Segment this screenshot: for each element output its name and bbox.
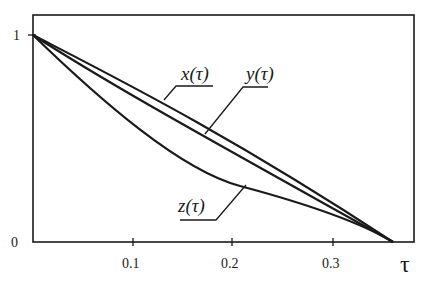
label-x-tau: x(τ) [180,63,209,85]
y-tick-label-0: 0 [11,235,18,250]
x-axis-label: τ [400,251,410,277]
label-y-tau: y(τ) [244,63,274,85]
x-tick-label-0.1: 0.1 [122,256,140,271]
x-tick-label-0.3: 0.3 [322,256,340,271]
leader-x [164,86,213,100]
chart-canvas: x(τ) y(τ) z(τ) 1 0 0.1 0.2 0.3 τ [0,0,426,285]
plot-frame [33,15,414,242]
y-tick-label-1: 1 [13,28,20,43]
leader-y [205,87,268,134]
curve-y-tau [33,35,393,242]
x-tick-label-0.2: 0.2 [221,256,239,271]
label-z-tau: z(τ) [177,195,205,217]
